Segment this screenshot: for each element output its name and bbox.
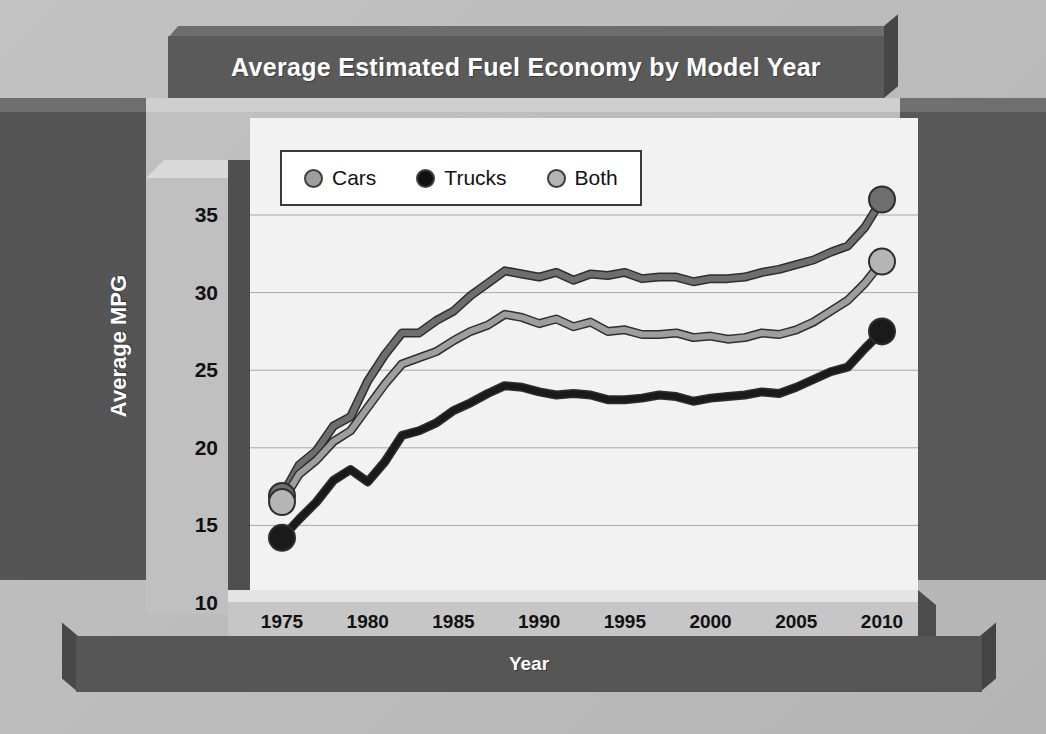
series-line-outline [282, 331, 882, 537]
title-bar: Average Estimated Fuel Economy by Model … [168, 36, 884, 98]
y-tick-label: 15 [195, 513, 218, 537]
x-pedestal-bevel [228, 590, 918, 602]
legend-item-cars[interactable]: Cars [304, 166, 376, 190]
legend-label-cars: Cars [332, 166, 376, 190]
y-pedestal-side [228, 160, 250, 614]
x-tick-label: 2010 [861, 611, 903, 633]
x-tick-label: 2005 [775, 611, 817, 633]
frame-right-slab [900, 112, 1046, 580]
legend: Cars Trucks Both [280, 150, 642, 206]
y-tick-label: 30 [195, 281, 218, 305]
series-marker-cars [869, 186, 895, 212]
x-tick-label: 1985 [432, 611, 474, 633]
x-tick-label: 1990 [518, 611, 560, 633]
series-line-outline [282, 199, 882, 495]
title-bar-side [884, 14, 898, 98]
y-tick-label: 35 [195, 203, 218, 227]
x-axis-title: Year [509, 653, 549, 675]
frame-left-bevel [0, 98, 146, 112]
legend-item-both[interactable]: Both [547, 166, 618, 190]
legend-label-both: Both [575, 166, 618, 190]
series-marker-both [269, 489, 295, 515]
y-axis-ticks: 101520253035 [146, 178, 224, 614]
legend-dot-trucks-icon [416, 169, 435, 188]
x-tick-label: 2000 [689, 611, 731, 633]
frame-top-band [0, 98, 1046, 112]
series-marker-trucks [269, 525, 295, 551]
series-marker-trucks [869, 318, 895, 344]
legend-dot-both-icon [547, 169, 566, 188]
legend-item-trucks[interactable]: Trucks [416, 166, 506, 190]
page-title: Average Estimated Fuel Economy by Model … [231, 53, 821, 82]
frame-right-bevel [900, 98, 1046, 112]
x-tick-label: 1975 [261, 611, 303, 633]
y-tick-label: 25 [195, 358, 218, 382]
y-axis-title-wrap: Average MPG [92, 112, 146, 580]
y-tick-label: 10 [195, 591, 218, 615]
series-marker-both [869, 249, 895, 275]
chart-screenshot: Average Estimated Fuel Economy by Model … [0, 0, 1046, 734]
x-tick-label: 1995 [604, 611, 646, 633]
legend-label-trucks: Trucks [444, 166, 506, 190]
y-axis-title: Average MPG [106, 275, 132, 417]
x-tick-label: 1980 [347, 611, 389, 633]
legend-dot-cars-icon [304, 169, 323, 188]
y-tick-label: 20 [195, 436, 218, 460]
series-line-trucks [282, 331, 882, 537]
series-line-cars [282, 199, 882, 495]
x-axis-title-wrap: Year [76, 636, 982, 692]
